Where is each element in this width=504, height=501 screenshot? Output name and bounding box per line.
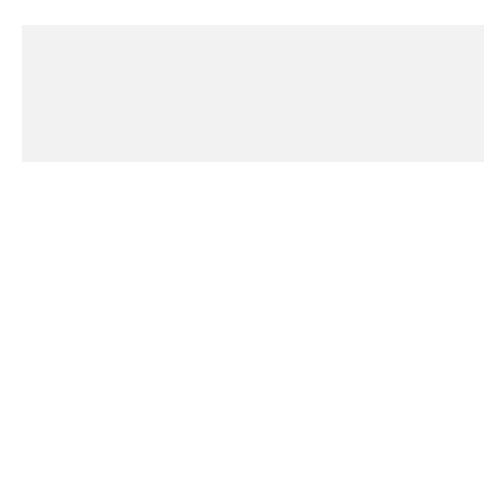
figure-board <box>22 25 484 162</box>
